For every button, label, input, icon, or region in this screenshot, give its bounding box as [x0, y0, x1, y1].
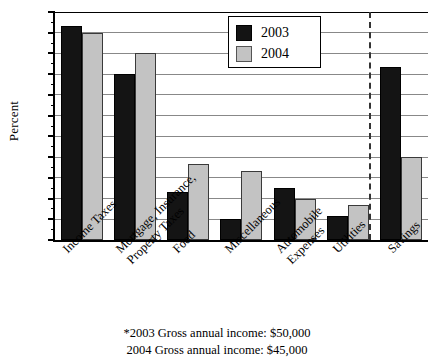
bar-group [321, 12, 374, 240]
bar-group [55, 12, 108, 240]
bar-2003 [327, 216, 348, 240]
legend: 2003 2004 [228, 16, 321, 68]
legend-entry-2004: 2004 [236, 43, 320, 64]
bar-2004 [188, 164, 209, 240]
y-tick-6 [48, 198, 55, 200]
legend-label-2003: 2003 [261, 26, 289, 40]
category-separator [369, 12, 371, 240]
bar-2004 [82, 33, 103, 240]
legend-swatch-2003-icon [236, 25, 252, 41]
bar-2004 [401, 157, 422, 240]
y-tick-27 [48, 52, 55, 54]
y-tick-24 [48, 73, 55, 75]
footnote-line-2: 2004 Gross annual income: $45,000 [0, 342, 434, 359]
y-tick-9 [48, 177, 55, 179]
y-axis-title: Percent [6, 76, 22, 166]
y-tick-3 [48, 218, 55, 220]
bar-2004 [241, 171, 262, 240]
y-tick-15 [48, 135, 55, 137]
bar-2003 [114, 74, 135, 240]
bar-group [375, 12, 428, 240]
y-tick-12 [48, 156, 55, 158]
y-tick-21 [48, 94, 55, 96]
bar-2003 [380, 67, 401, 240]
footnote-line-1: *2003 Gross annual income: $50,000 [0, 325, 434, 342]
bar-chart: Percent 03691215182124273033 Income Taxe… [0, 0, 434, 363]
y-tick-33 [48, 11, 55, 13]
bar-group [162, 12, 215, 240]
y-tick-0 [48, 239, 55, 241]
footnotes: *2003 Gross annual income: $50,000 2004 … [0, 325, 434, 359]
legend-entry-2003: 2003 [236, 22, 320, 43]
bar-group [108, 12, 161, 240]
bar-2003 [61, 26, 82, 240]
y-tick-30 [48, 32, 55, 34]
legend-label-2004: 2004 [261, 47, 289, 61]
y-tick-18 [48, 115, 55, 117]
bar-2004 [295, 199, 316, 240]
bar-2004 [348, 205, 369, 240]
bar-2003 [167, 192, 188, 240]
bar-2003 [220, 219, 241, 240]
legend-swatch-2004-icon [236, 46, 252, 62]
bar-2004 [135, 53, 156, 240]
bar-2003 [274, 188, 295, 240]
